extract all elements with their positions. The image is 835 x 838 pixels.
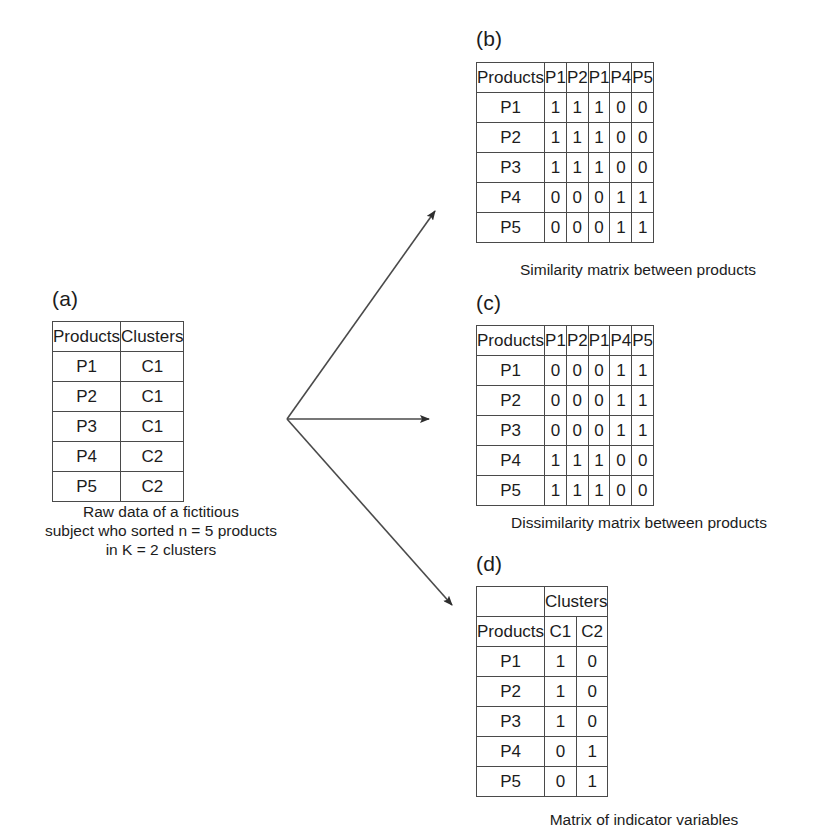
cell-value: 0 bbox=[566, 213, 588, 243]
cell-value: 0 bbox=[610, 123, 632, 153]
panel-b-label: (b) bbox=[476, 28, 502, 49]
cell-cluster: C2 bbox=[121, 472, 184, 502]
cell-value: 1 bbox=[610, 416, 632, 446]
cell-value: 1 bbox=[610, 213, 632, 243]
cell-product: P2 bbox=[53, 382, 121, 412]
table-row: P3 1 0 bbox=[477, 707, 608, 737]
similarity-matrix-table: Products P1 P2 P1 P4 P5 P1 1 1 1 0 0 P2 … bbox=[476, 62, 654, 243]
cell-value: 1 bbox=[632, 183, 654, 213]
arrow-to-indicator-matrix bbox=[287, 419, 452, 605]
row-header: P1 bbox=[477, 356, 545, 386]
cell-value: 1 bbox=[588, 476, 610, 506]
column-header: P1 bbox=[545, 63, 567, 93]
cell-value: 0 bbox=[610, 153, 632, 183]
row-header: P2 bbox=[477, 386, 545, 416]
cell-value: 0 bbox=[588, 213, 610, 243]
row-header: P2 bbox=[477, 677, 545, 707]
cell-value: 0 bbox=[588, 416, 610, 446]
row-header: P4 bbox=[477, 737, 545, 767]
cell-value: 1 bbox=[566, 476, 588, 506]
table-row: P1 C1 bbox=[53, 352, 184, 382]
row-header: P5 bbox=[477, 213, 545, 243]
table-row: P5 C2 bbox=[53, 472, 184, 502]
cell-value: 0 bbox=[566, 356, 588, 386]
table-header-row: Products P1 P2 P1 P4 P5 bbox=[477, 63, 654, 93]
row-header: P1 bbox=[477, 93, 545, 123]
table-header-row: Products Clusters bbox=[53, 322, 184, 352]
table-row: P2 1 1 1 0 0 bbox=[477, 123, 654, 153]
arrow-to-similarity-matrix bbox=[287, 211, 435, 419]
cell-value: 1 bbox=[566, 93, 588, 123]
cell-cluster: C1 bbox=[121, 412, 184, 442]
cell-value: 1 bbox=[632, 213, 654, 243]
cell-value: 0 bbox=[545, 767, 577, 797]
panel-a-label: (a) bbox=[52, 288, 78, 309]
table-row: P2 0 0 0 1 1 bbox=[477, 386, 654, 416]
column-header: P5 bbox=[632, 326, 654, 356]
cell-value: 1 bbox=[588, 123, 610, 153]
table-row: P1 1 0 bbox=[477, 647, 608, 677]
row-header: P2 bbox=[477, 123, 545, 153]
table-row: P4 1 1 1 0 0 bbox=[477, 446, 654, 476]
panel-c-label: (c) bbox=[476, 292, 501, 313]
cell-value: 1 bbox=[545, 677, 577, 707]
cell-value: 0 bbox=[610, 93, 632, 123]
cell-value: 0 bbox=[566, 416, 588, 446]
cell-value: 0 bbox=[632, 123, 654, 153]
cell-value: 1 bbox=[588, 93, 610, 123]
cell-value: 0 bbox=[545, 356, 567, 386]
table-row: P3 C1 bbox=[53, 412, 184, 442]
column-header: C2 bbox=[576, 617, 608, 647]
cell-value: 1 bbox=[632, 416, 654, 446]
cell-value: 1 bbox=[545, 647, 577, 677]
cell-cluster: C2 bbox=[121, 442, 184, 472]
cell-product: P4 bbox=[53, 442, 121, 472]
cell-value: 0 bbox=[566, 183, 588, 213]
column-header: P4 bbox=[610, 326, 632, 356]
table-row: P4 0 1 bbox=[477, 737, 608, 767]
cell-product: P1 bbox=[53, 352, 121, 382]
cell-product: P3 bbox=[53, 412, 121, 442]
cell-value: 0 bbox=[610, 476, 632, 506]
cell-value: 0 bbox=[545, 183, 567, 213]
cell-product: P5 bbox=[53, 472, 121, 502]
cell-value: 0 bbox=[545, 213, 567, 243]
table-row: P3 0 0 0 1 1 bbox=[477, 416, 654, 446]
cell-value: 1 bbox=[545, 707, 577, 737]
cell-value: 1 bbox=[610, 386, 632, 416]
corner-cell bbox=[477, 587, 545, 617]
row-header: P5 bbox=[477, 767, 545, 797]
table-row: P4 0 0 0 1 1 bbox=[477, 183, 654, 213]
column-header: P2 bbox=[566, 326, 588, 356]
cell-value: 1 bbox=[566, 446, 588, 476]
dissimilarity-matrix-table: Products P1 P2 P1 P4 P5 P1 0 0 0 1 1 P2 … bbox=[476, 325, 654, 506]
cell-value: 0 bbox=[576, 647, 608, 677]
raw-data-table: Products Clusters P1 C1 P2 C1 P3 C1 P4 C… bbox=[52, 321, 184, 502]
cell-value: 1 bbox=[610, 356, 632, 386]
table-group-header-row: Clusters bbox=[477, 587, 608, 617]
column-header: Products bbox=[477, 63, 545, 93]
cell-value: 0 bbox=[632, 446, 654, 476]
table-row: P5 1 1 1 0 0 bbox=[477, 476, 654, 506]
cell-value: 1 bbox=[545, 153, 567, 183]
cell-value: 0 bbox=[632, 153, 654, 183]
cell-value: 0 bbox=[632, 93, 654, 123]
panel-c-caption: Dissimilarity matrix between products bbox=[472, 513, 806, 532]
column-header: P1 bbox=[588, 326, 610, 356]
cell-value: 1 bbox=[576, 767, 608, 797]
column-header: P4 bbox=[610, 63, 632, 93]
table-row: P3 1 1 1 0 0 bbox=[477, 153, 654, 183]
row-header: P1 bbox=[477, 647, 545, 677]
cell-value: 0 bbox=[545, 737, 577, 767]
cell-value: 1 bbox=[545, 476, 567, 506]
table-row: P2 1 0 bbox=[477, 677, 608, 707]
cell-value: 1 bbox=[588, 446, 610, 476]
panel-d-caption: Matrix of indicator variables bbox=[476, 810, 812, 829]
panel-a-caption: Raw data of a fictitious subject who sor… bbox=[14, 502, 308, 559]
cell-value: 0 bbox=[588, 183, 610, 213]
column-header: Products bbox=[53, 322, 121, 352]
row-header: P4 bbox=[477, 183, 545, 213]
table-header-row: Products P1 P2 P1 P4 P5 bbox=[477, 326, 654, 356]
panel-d-label: (d) bbox=[476, 553, 502, 574]
column-header: P1 bbox=[545, 326, 567, 356]
